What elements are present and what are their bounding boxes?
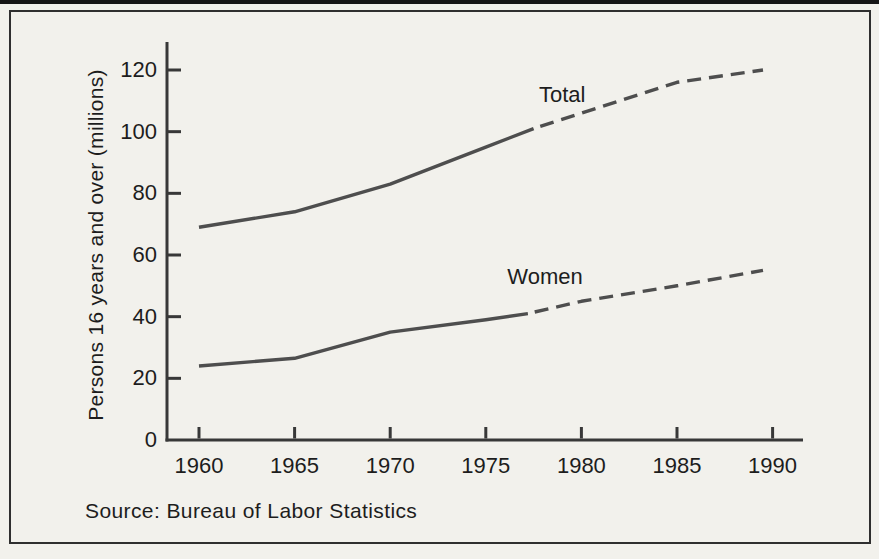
y-tick-label-60: 60 (87, 242, 157, 268)
x-tick-label-1980: 1980 (536, 453, 626, 479)
y-tick-label-40: 40 (87, 304, 157, 330)
y-tick-label-100: 100 (87, 119, 157, 145)
x-tick-label-1965: 1965 (250, 453, 340, 479)
x-tick-label-1990: 1990 (728, 453, 818, 479)
series-label-women: Women (475, 264, 615, 290)
scanned-page: Persons 16 years and over (millions) Sou… (0, 0, 879, 559)
total-actual-line (199, 129, 534, 228)
series-label-total: Total (492, 82, 632, 108)
x-tick-label-1960: 1960 (154, 453, 244, 479)
source-note: Source: Bureau of Labor Statistics (85, 499, 417, 523)
y-tick-label-80: 80 (87, 180, 157, 206)
women-actual-line (199, 314, 528, 366)
x-tick-label-1970: 1970 (345, 453, 435, 479)
y-tick-label-20: 20 (87, 365, 157, 391)
x-tick-label-1975: 1975 (441, 453, 531, 479)
y-tick-label-0: 0 (87, 427, 157, 453)
y-tick-label-120: 120 (87, 57, 157, 83)
x-tick-label-1985: 1985 (632, 453, 722, 479)
